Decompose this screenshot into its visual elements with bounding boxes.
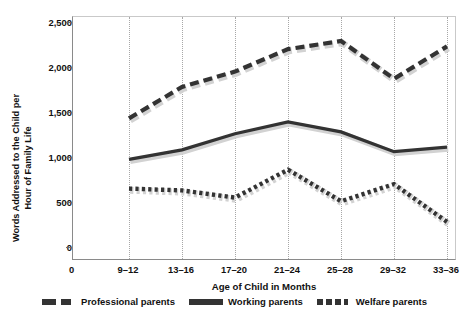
chart-legend: Professional parents Working parents Wel… <box>0 296 469 307</box>
x-tick-label: 17–20 <box>221 264 247 275</box>
chart-container: Words Addressed to the Child per Hour of… <box>0 0 469 317</box>
dotted-line-swatch-icon <box>317 299 351 305</box>
x-tick-label: 25–28 <box>327 264 353 275</box>
y-axis-ticks: 05001,0001,5002,0002,500 <box>0 0 72 280</box>
dashed-line-swatch-icon <box>42 299 76 305</box>
x-tick-label: 9–12 <box>118 264 139 275</box>
x-axis-origin-label: 0 <box>69 264 74 275</box>
legend-label-working: Working parents <box>228 296 303 307</box>
legend-item-professional[interactable]: Professional parents <box>42 296 175 307</box>
legend-item-welfare[interactable]: Welfare parents <box>317 296 427 307</box>
legend-label-welfare: Welfare parents <box>356 296 427 307</box>
x-axis-title: Age of Child in Months <box>72 281 456 292</box>
x-tick-label: 29–32 <box>380 264 406 275</box>
series-lines <box>73 17 457 261</box>
series-line-shadow <box>130 43 448 120</box>
legend-label-professional: Professional parents <box>81 296 175 307</box>
x-tick-label: 13–16 <box>168 264 194 275</box>
legend-item-working[interactable]: Working parents <box>189 296 303 307</box>
series-line-shadow <box>130 172 448 224</box>
series-line-shadow <box>130 124 448 161</box>
x-tick-label: 33–36 <box>433 264 459 275</box>
solid-line-swatch-icon <box>189 299 223 305</box>
x-tick-label: 21–24 <box>274 264 300 275</box>
plot-area <box>72 16 456 260</box>
series-line <box>129 170 447 222</box>
